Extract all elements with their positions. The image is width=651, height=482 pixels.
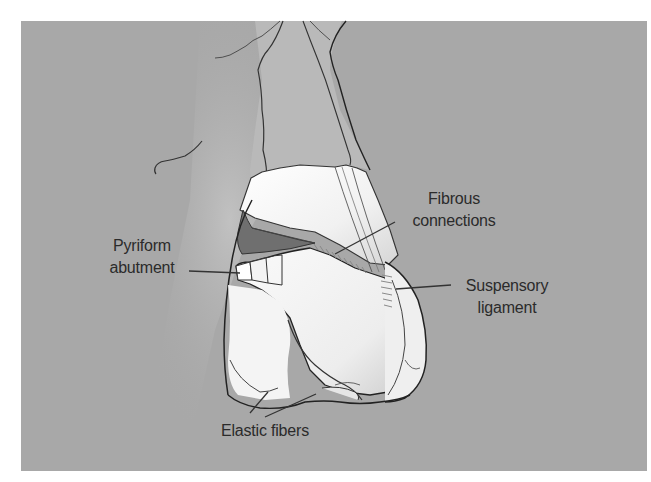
label-suspensory-ligament-line1: Suspensory (452, 275, 562, 297)
label-pyriform-abutment-line1: Pyriform (98, 235, 186, 257)
label-fibrous-connections-line1: Fibrous (396, 188, 512, 210)
label-elastic-fibers: Elastic fibers (206, 420, 324, 442)
label-suspensory-ligament-line2: ligament (452, 297, 562, 319)
label-pyriform-abutment-line2: abutment (98, 257, 186, 279)
label-fibrous-connections: Fibrous connections (396, 188, 512, 232)
label-fibrous-connections-line2: connections (396, 210, 512, 232)
label-elastic-fibers-line1: Elastic fibers (206, 420, 324, 442)
label-pyriform-abutment: Pyriform abutment (98, 235, 186, 279)
label-suspensory-ligament: Suspensory ligament (452, 275, 562, 319)
